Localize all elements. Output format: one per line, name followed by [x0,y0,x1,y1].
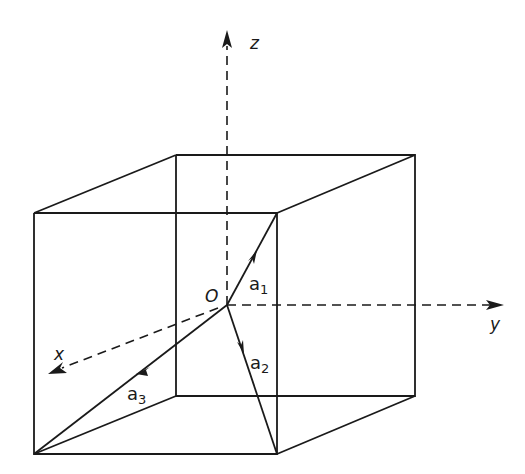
z-axis [222,30,232,305]
cube-back-face [176,155,415,396]
vector-a1-name: a [249,273,260,294]
y-axis [227,300,504,310]
vector-a2-subscript: 2 [261,361,269,376]
x-axis-label: x [53,344,65,364]
vector-a2-arrowhead-icon [237,340,244,354]
vector-a1-arrowhead-icon [248,250,257,264]
vector-a2-label: a2 [250,352,269,376]
origin-label: O [205,286,218,306]
z-axis-label: z [249,33,260,53]
vector-a2-name: a [250,352,261,373]
y-axis-label: y [489,314,501,334]
vector-a1-label: a1 [249,273,268,297]
vector-a2 [227,305,277,454]
vector-a1-subscript: 1 [260,282,268,297]
vector-a3-name: a [127,383,138,404]
z-axis-arrowhead-icon [222,30,232,48]
vector-a3-label: a3 [127,383,146,407]
vector-a3 [34,305,227,454]
vector-a3-subscript: 3 [138,392,146,407]
cube-vector-diagram: z y x O a1 a2 a3 [0,0,525,474]
cube-front-face [34,213,277,454]
x-axis [48,308,218,374]
